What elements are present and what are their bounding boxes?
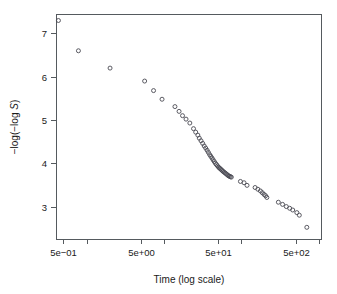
data-point (173, 105, 177, 109)
data-point (245, 183, 249, 187)
x-tick-label: 5e+02 (283, 247, 310, 258)
data-point (108, 66, 112, 70)
x-axis-title: Time (log scale) (154, 274, 225, 285)
plot-frame (57, 15, 322, 240)
data-point (276, 200, 280, 204)
data-point (76, 49, 80, 53)
x-tick-label: 5e+00 (128, 247, 155, 258)
data-point (184, 117, 188, 121)
y-tick-label: 3 (42, 202, 47, 213)
data-point (281, 202, 285, 206)
data-points-layer (56, 18, 308, 229)
data-point (143, 79, 147, 83)
x-axis-ticks: 5e−015e+005e+015e+02 (50, 239, 319, 258)
data-point (188, 121, 192, 125)
data-point (305, 225, 309, 229)
data-point (160, 97, 164, 101)
y-tick-label: 6 (42, 72, 47, 83)
data-point (297, 213, 301, 217)
figure-container: 5e−015e+005e+015e+02 76543 Time (log sca… (0, 0, 337, 294)
data-point (181, 114, 185, 118)
y-axis-title-pre: −log(−log (9, 110, 20, 154)
y-tick-label: 4 (42, 158, 47, 169)
scatter-plot: 5e−015e+005e+015e+02 76543 Time (log sca… (0, 0, 337, 294)
y-tick-label: 7 (42, 28, 47, 39)
y-axis-title: −log(−log S) (9, 100, 20, 155)
data-point (152, 89, 156, 93)
data-point (56, 18, 60, 22)
data-point (177, 109, 181, 113)
y-axis-title-post: ) (9, 100, 20, 103)
y-axis-ticks: 76543 (42, 28, 56, 213)
y-tick-label: 5 (42, 115, 47, 126)
x-tick-label: 5e+01 (205, 247, 232, 258)
x-tick-label: 5e−01 (50, 247, 77, 258)
